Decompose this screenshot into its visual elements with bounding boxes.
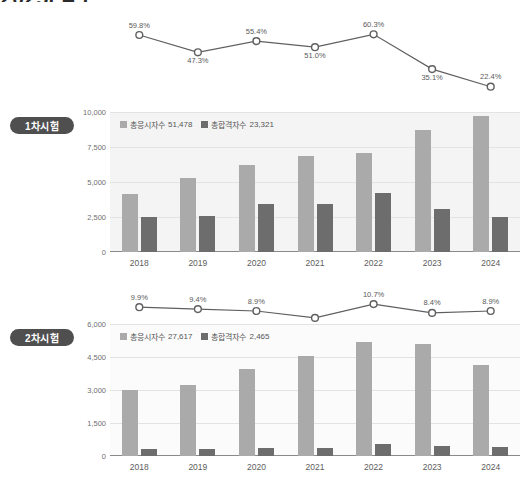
gridline	[110, 112, 520, 113]
y-axis-tick: 0	[74, 452, 106, 461]
bar-applicants[interactable]	[415, 130, 431, 252]
page-title: 2025( 4 )	[0, 0, 89, 2]
x-axis-tick: 2021	[306, 258, 325, 268]
y-axis-tick: 3,000	[74, 386, 106, 395]
bar-passers[interactable]	[492, 217, 508, 252]
gridline	[110, 390, 520, 391]
line-point-label: 59.8%	[129, 21, 151, 30]
bar-passers[interactable]	[258, 448, 274, 456]
square-swatch-dark-icon	[201, 121, 208, 128]
bar-passers[interactable]	[375, 193, 391, 253]
gridline	[110, 423, 520, 424]
gridline	[110, 182, 520, 183]
gridline	[110, 147, 520, 148]
bar-applicants[interactable]	[122, 194, 138, 252]
gridline	[110, 357, 520, 358]
legend-first-exam: 총응시자수 51,478 총합격자수 23,321	[120, 119, 274, 130]
line-point-label: 51.0%	[304, 51, 326, 60]
x-axis-tick: 2024	[481, 462, 500, 472]
legend-value-applicants: 51,478	[168, 120, 192, 129]
bar-applicants[interactable]	[239, 165, 255, 253]
line-marker[interactable]	[370, 301, 377, 308]
x-axis-tick: 2023	[423, 462, 442, 472]
line-marker[interactable]	[195, 306, 202, 313]
line-chart-first-exam-pass-rate: 59.8%47.3%55.4%51.0%60.3%35.1%22.4%	[108, 12, 520, 104]
bar-passers[interactable]	[258, 204, 274, 252]
bar-passers[interactable]	[492, 447, 508, 456]
bar-applicants[interactable]	[415, 344, 431, 456]
bar-passers[interactable]	[434, 446, 450, 456]
x-axis-tick: 2018	[130, 258, 149, 268]
line-point-label: 35.1%	[421, 73, 443, 82]
bar-passers[interactable]	[375, 444, 391, 456]
legend-value-passers: 23,321	[249, 120, 273, 129]
bar-passers[interactable]	[141, 449, 157, 456]
bar-applicants[interactable]	[473, 116, 489, 252]
x-axis-tick: 2020	[247, 258, 266, 268]
x-axis-line	[110, 251, 520, 252]
x-axis-tick: 2020	[247, 462, 266, 472]
bar-applicants[interactable]	[122, 390, 138, 456]
bar-applicants[interactable]	[180, 178, 196, 252]
bar-passers[interactable]	[199, 216, 215, 252]
bar-applicants[interactable]	[356, 342, 372, 456]
line-marker[interactable]	[429, 310, 436, 317]
line-point-label: 9.4%	[189, 295, 206, 304]
x-axis-tick: 2022	[364, 258, 383, 268]
line-point-label: 8.9%	[482, 297, 499, 306]
badge-first-exam: 1차시험	[10, 117, 74, 134]
bar-applicants[interactable]	[298, 156, 314, 252]
legend-item-passers: 총합격자수 23,321	[201, 119, 273, 130]
line-point-label: 22.4%	[480, 72, 502, 81]
legend-label-passers: 총합격자수	[211, 119, 246, 130]
y-axis-tick: 6,000	[74, 320, 106, 329]
line-marker[interactable]	[370, 31, 377, 38]
square-swatch-dark-icon	[201, 333, 208, 340]
bar-passers[interactable]	[317, 448, 333, 456]
bar-applicants[interactable]	[239, 369, 255, 456]
line-point-label: 8.4%	[424, 298, 441, 307]
bar-chart-2-plot-area	[110, 324, 520, 456]
line-chart-2-svg: 9.9%9.4%8.9%7.1%10.7%8.4%8.9%	[108, 286, 520, 326]
line-marker[interactable]	[136, 304, 143, 311]
line-marker[interactable]	[136, 32, 143, 39]
bar-passers[interactable]	[317, 204, 333, 252]
line-chart-second-exam-pass-rate: 9.9%9.4%8.9%7.1%10.7%8.4%8.9%	[108, 286, 520, 326]
x-axis-tick: 2019	[188, 462, 207, 472]
line-marker[interactable]	[312, 44, 319, 51]
infographic-page: 2025( 4 ) 1차시험 59.8%47.3%55.4%51.0%60.3%…	[0, 0, 526, 490]
line-point-label: 10.7%	[363, 290, 385, 299]
bar-applicants[interactable]	[356, 153, 372, 252]
bar-passers[interactable]	[434, 209, 450, 252]
bar-passers[interactable]	[141, 217, 157, 252]
bar-chart-1-plot-area	[110, 112, 520, 252]
line-point-label: 55.4%	[246, 27, 268, 36]
line-marker[interactable]	[487, 308, 494, 315]
x-axis-tick: 2021	[306, 462, 325, 472]
line-marker[interactable]	[253, 38, 260, 45]
bar-applicants[interactable]	[180, 385, 196, 456]
bar-applicants[interactable]	[473, 365, 489, 456]
y-axis-tick: 2,500	[74, 213, 106, 222]
x-axis-tick: 2022	[364, 462, 383, 472]
line-marker[interactable]	[195, 49, 202, 56]
x-axis-tick: 2024	[481, 258, 500, 268]
line-marker[interactable]	[487, 83, 494, 90]
legend-item-passers-2: 총합격자수 2,465	[201, 331, 269, 342]
line-marker[interactable]	[253, 308, 260, 315]
line-point-label: 9.9%	[131, 293, 148, 302]
bar-passers[interactable]	[199, 449, 215, 456]
legend-value-applicants-2: 27,617	[168, 332, 192, 341]
badge-second-exam: 2차시험	[10, 329, 74, 346]
y-axis-tick: 10,000	[74, 108, 106, 117]
legend-label-applicants: 총응시자수	[130, 119, 165, 130]
bar-applicants[interactable]	[298, 356, 314, 456]
legend-label-applicants-2: 총응시자수	[130, 331, 165, 342]
line-point-label: 47.3%	[187, 56, 209, 65]
line-point-label: 8.9%	[248, 297, 265, 306]
gridline	[110, 324, 520, 325]
gridline	[110, 217, 520, 218]
line-marker[interactable]	[429, 66, 436, 73]
line-marker[interactable]	[312, 315, 319, 322]
y-axis-tick: 7,500	[74, 143, 106, 152]
